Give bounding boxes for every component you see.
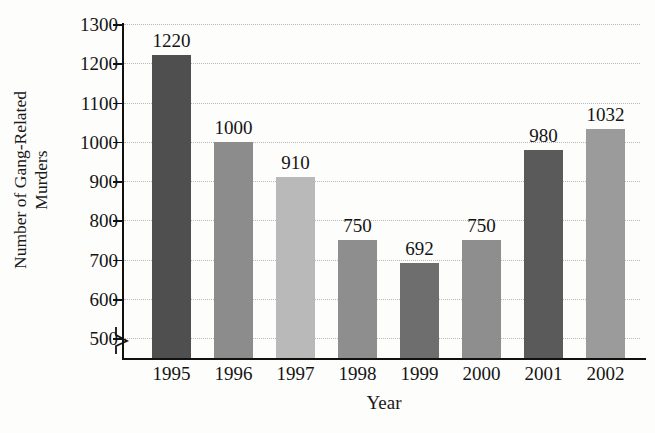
bar[interactable] xyxy=(338,240,377,358)
bar-group: 980 xyxy=(524,24,563,358)
bar-value-label: 1220 xyxy=(153,31,191,50)
bar-series: 122010009107506927509801032 xyxy=(124,24,640,358)
x-axis-title: Year xyxy=(122,392,646,414)
bar[interactable] xyxy=(152,55,191,358)
y-axis-tickmark xyxy=(113,24,123,26)
bar-value-label: 692 xyxy=(405,239,434,258)
y-axis-tick-label: 800 xyxy=(60,211,118,230)
bar-group: 750 xyxy=(338,24,377,358)
x-axis-tick-label: 2001 xyxy=(525,364,563,383)
y-axis-tick-label: 600 xyxy=(60,290,118,309)
bar-group: 910 xyxy=(276,24,315,358)
bar-value-label: 1000 xyxy=(215,118,253,137)
bar[interactable] xyxy=(214,142,253,358)
x-axis-tick-label: 1996 xyxy=(215,364,253,383)
bar-value-label: 750 xyxy=(467,216,496,235)
bar-group: 750 xyxy=(462,24,501,358)
x-axis-tick-label: 1995 xyxy=(153,364,191,383)
y-axis-tickmark xyxy=(113,260,123,262)
bar-group: 1000 xyxy=(214,24,253,358)
y-axis-tickmark xyxy=(113,181,123,183)
y-axis-tickmark xyxy=(113,338,123,340)
y-axis-tickmark xyxy=(113,142,123,144)
y-axis-tick-label: 1000 xyxy=(60,132,118,151)
bar[interactable] xyxy=(524,150,563,358)
y-axis-tick-labels: 1300120011001000900800700600500 xyxy=(58,0,118,433)
bar[interactable] xyxy=(462,240,501,358)
y-axis-tick-label: 500 xyxy=(60,329,118,348)
bar[interactable] xyxy=(400,263,439,358)
bar[interactable] xyxy=(276,177,315,358)
y-axis-tick-label: 700 xyxy=(60,250,118,269)
plot-area: 122010009107506927509801032 xyxy=(122,24,640,358)
y-axis-tickmark xyxy=(113,63,123,65)
bar-group: 1032 xyxy=(586,24,625,358)
y-axis-tick-label: 1100 xyxy=(60,93,118,112)
bar-value-label: 750 xyxy=(343,216,372,235)
x-axis-tick-label: 1999 xyxy=(401,364,439,383)
x-axis-line xyxy=(122,358,646,360)
x-axis-tick-label: 1998 xyxy=(339,364,377,383)
y-axis-tickmark xyxy=(113,103,123,105)
bar-chart-figure: Number of Gang-Related Murders 130012001… xyxy=(0,0,655,433)
x-axis-tick-label: 1997 xyxy=(277,364,315,383)
y-axis-title-line1: Number of Gang-Related xyxy=(10,91,30,269)
y-axis-tickmark xyxy=(113,220,123,222)
bar[interactable] xyxy=(586,129,625,358)
y-axis-tickmark xyxy=(113,299,123,301)
y-axis-title-line2: Murders xyxy=(31,91,52,269)
bar-value-label: 980 xyxy=(529,126,558,145)
y-axis-tick-label: 1200 xyxy=(60,54,118,73)
y-axis-title: Number of Gang-Related Murders xyxy=(0,0,62,360)
x-axis-tick-label: 2002 xyxy=(587,364,625,383)
bar-group: 1220 xyxy=(152,24,191,358)
y-axis-tick-label: 900 xyxy=(60,172,118,191)
bar-group: 692 xyxy=(400,24,439,358)
bar-value-label: 1032 xyxy=(587,105,625,124)
x-axis-tick-label: 2000 xyxy=(463,364,501,383)
y-axis-tick-label: 1300 xyxy=(60,15,118,34)
bar-value-label: 910 xyxy=(281,153,310,172)
